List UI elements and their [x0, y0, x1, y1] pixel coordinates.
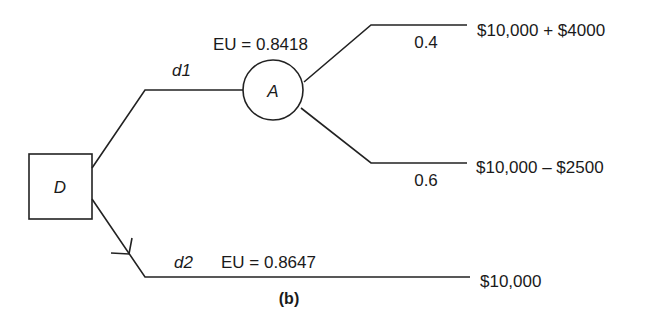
- branch-d1-line: [92, 90, 243, 168]
- branch-d1-label: d1: [172, 61, 191, 80]
- decision-node-label: D: [54, 178, 66, 197]
- chance-branch-upper-probability: 0.4: [414, 33, 438, 52]
- chance-branch-lower-probability: 0.6: [414, 171, 438, 190]
- figure-caption: (b): [279, 290, 299, 307]
- chance-branch-upper-outcome: $10,000 + $4000: [477, 21, 605, 40]
- chance-branch-lower-line: [301, 108, 467, 163]
- chance-node-label: A: [266, 82, 278, 101]
- decision-tree-diagram: D d1 A EU = 0.8418 0.4 $10,000 + $4000 0…: [0, 0, 657, 334]
- chance-node-eu: EU = 0.8418: [213, 35, 308, 54]
- chance-branch-lower-outcome: $10,000 – $2500: [476, 158, 604, 177]
- chance-branch-upper-line: [304, 25, 467, 82]
- branch-d2-outcome: $10,000: [480, 272, 541, 291]
- chosen-path-arrow-icon: [111, 238, 132, 254]
- branch-d2-eu: EU = 0.8647: [221, 253, 316, 272]
- branch-d2-label: d2: [174, 253, 193, 272]
